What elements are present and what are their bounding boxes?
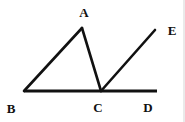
segment-AC <box>82 28 101 91</box>
geometry-figure: A B C D E <box>0 0 185 122</box>
vertex-label-d: D <box>143 101 152 114</box>
vertex-label-a: A <box>79 6 88 19</box>
vertex-label-b: B <box>7 102 16 115</box>
segment-BA <box>24 28 82 91</box>
vertex-label-c: C <box>93 101 102 114</box>
right-edge-artifact <box>183 0 185 122</box>
vertex-label-e: E <box>168 24 177 37</box>
segment-CE-ray <box>101 30 155 91</box>
